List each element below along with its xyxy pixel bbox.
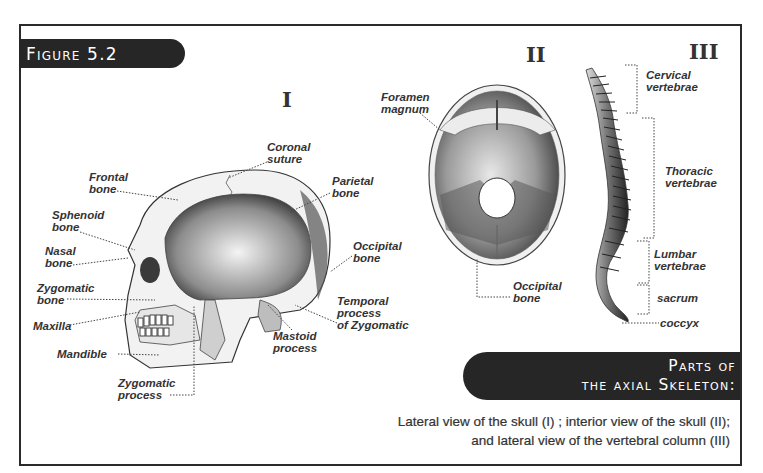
panel-numeral-iii: III — [689, 39, 718, 64]
label-frontal-bone: Frontalbone — [89, 171, 128, 195]
label-zygomatic-bone: Zygomaticbone — [37, 282, 95, 306]
label-parietal-bone: Parietalbone — [332, 175, 374, 199]
label-sacrum: sacrum — [657, 292, 698, 304]
label-cervical-vertebrae: Cervicalvertebrae — [646, 69, 698, 93]
figure-title-tab: Parts of the axial Skeleton: — [463, 352, 740, 400]
label-foramen-magnum: Foramenmagnum — [381, 91, 430, 115]
label-temporal-process-of-zygomatic: Temporalprocessof Zygomatic — [337, 295, 409, 331]
caption-line-1: Lateral view of the skull (I) ; interior… — [398, 412, 730, 431]
figure-title-line-2: the axial Skeleton: — [463, 376, 740, 395]
label-coccyx: coccyx — [660, 317, 699, 329]
vertebral-column-drawing — [586, 68, 631, 322]
figure-caption: Lateral view of the skull (I) ; interior… — [398, 412, 730, 450]
label-mandible: Mandible — [57, 348, 107, 360]
panel-numeral-ii: II — [526, 42, 546, 67]
label-maxilla: Maxilla — [33, 320, 71, 332]
label-mastoid-process: Mastoidprocess — [273, 330, 317, 354]
label-lumbar-vertebrae: Lumbarvertebrae — [654, 248, 706, 272]
interior-skull-drawing — [429, 85, 565, 265]
label-thoracic-vertebrae: Thoracicvertebrae — [665, 165, 717, 189]
panel-numeral-i: I — [282, 87, 292, 112]
figure-title-line-1: Parts of — [463, 357, 740, 376]
caption-line-2: and lateral view of the vertebral column… — [398, 431, 730, 450]
label-occipital-bone-interior: Occipitalbone — [513, 280, 562, 304]
label-zygomatic-process: Zygomaticprocess — [118, 377, 176, 401]
label-occipital-bone-lateral: Occipitalbone — [353, 240, 402, 264]
label-sphenoid-bone: Sphenoidbone — [52, 209, 104, 233]
label-coronal-suture: Coronalsuture — [267, 141, 310, 165]
label-nasal-bone: Nasalbone — [45, 245, 76, 269]
